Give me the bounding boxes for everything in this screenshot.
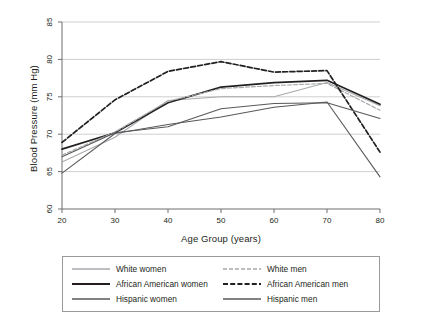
x-tick-label: 30 <box>111 216 120 225</box>
legend-item[interactable]: African American men <box>222 276 373 291</box>
data-series-group <box>62 62 380 177</box>
x-tick-label: 70 <box>323 216 332 225</box>
y-tick-label: 85 <box>45 17 54 26</box>
series-line <box>62 80 380 149</box>
series-line <box>62 83 380 155</box>
legend-item[interactable]: White women <box>71 261 222 276</box>
y-tick-label: 60 <box>45 204 54 213</box>
legend-label: African American men <box>267 280 348 288</box>
legend-line-swatch <box>222 294 262 304</box>
series-line <box>62 62 380 153</box>
legend-label: African American women <box>116 280 208 288</box>
legend-line-swatch <box>71 279 111 289</box>
chart-legend: White womenWhite menAfrican American wom… <box>62 256 380 312</box>
legend-label: Hispanic women <box>116 295 177 303</box>
legend-label: White men <box>267 265 307 273</box>
y-tick-label: 75 <box>45 92 54 101</box>
legend-item[interactable]: African American women <box>71 276 222 291</box>
legend-label: Hispanic men <box>267 295 317 303</box>
legend-item[interactable]: Hispanic women <box>71 292 222 307</box>
legend-line-swatch <box>222 264 262 274</box>
x-tick-label: 50 <box>217 216 226 225</box>
x-tick-label: 40 <box>164 216 173 225</box>
y-tick-label: 70 <box>45 129 54 138</box>
x-tick-label: 20 <box>58 216 67 225</box>
legend-item[interactable]: Hispanic men <box>222 292 373 307</box>
series-line <box>62 83 380 162</box>
legend-line-swatch <box>71 264 111 274</box>
legend-line-swatch <box>222 279 262 289</box>
x-tick-label: 60 <box>270 216 279 225</box>
series-line <box>62 103 380 157</box>
y-tick-label: 65 <box>45 167 54 176</box>
legend-item[interactable]: White men <box>222 261 373 276</box>
legend-line-swatch <box>71 294 111 304</box>
plot-area: 606570758085 20304050607080 <box>0 0 432 250</box>
chart-figure: Blood Pressure (mm Hg) Age Group (years)… <box>0 0 432 325</box>
y-axis-ticks: 606570758085 <box>45 17 62 213</box>
legend-label: White women <box>116 265 166 273</box>
x-axis-ticks: 20304050607080 <box>58 209 385 225</box>
y-tick-label: 80 <box>45 54 54 63</box>
x-tick-label: 80 <box>376 216 385 225</box>
